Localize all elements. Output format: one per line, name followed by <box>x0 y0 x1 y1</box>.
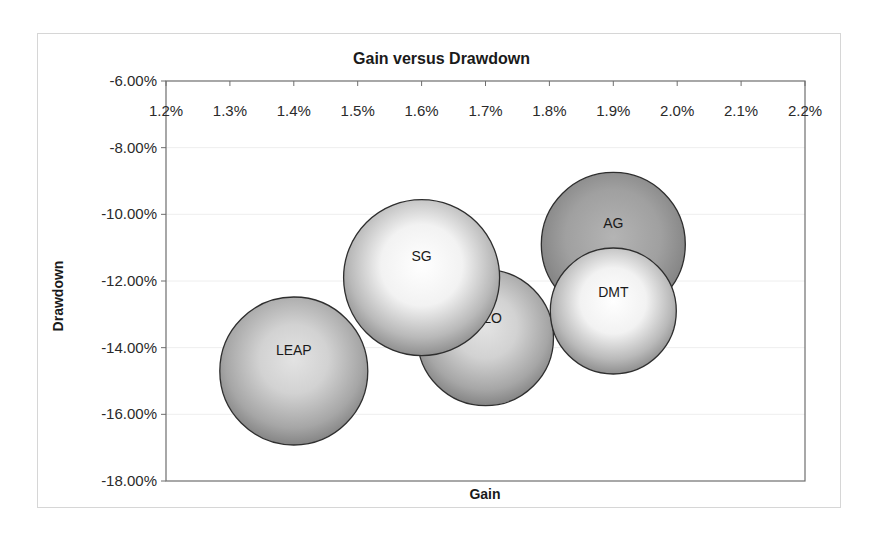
bubble-leap[interactable]: LEAP <box>220 297 368 445</box>
x-tick-label: 1.8% <box>532 102 566 119</box>
x-tick-label: 2.0% <box>660 102 694 119</box>
bubble-label: SG <box>411 248 431 264</box>
bubble-dmt[interactable]: DMT <box>550 248 676 374</box>
y-tick-label: -12.00% <box>101 272 157 289</box>
bubble-plot: -6.00%-8.00%-10.00%-12.00%-14.00%-16.00%… <box>0 0 883 533</box>
x-tick-label: 1.9% <box>596 102 630 119</box>
bubble-label: LEAP <box>276 342 312 358</box>
y-tick-label: -8.00% <box>109 139 157 156</box>
y-tick-label: -18.00% <box>101 472 157 489</box>
bubble-label: AG <box>603 215 623 231</box>
y-tick-label: -14.00% <box>101 339 157 356</box>
bubble-sg[interactable]: SG <box>344 200 500 356</box>
x-tick-label: 1.4% <box>277 102 311 119</box>
x-tick-label: 1.7% <box>468 102 502 119</box>
bubble-label: DMT <box>598 284 629 300</box>
x-tick-label: 1.3% <box>213 102 247 119</box>
x-tick-label: 1.6% <box>404 102 438 119</box>
y-tick-label: -10.00% <box>101 205 157 222</box>
x-tick-label: 2.2% <box>788 102 822 119</box>
y-tick-label: -16.00% <box>101 405 157 422</box>
x-tick-label: 2.1% <box>724 102 758 119</box>
x-tick-label: 1.2% <box>149 102 183 119</box>
y-tick-label: -6.00% <box>109 72 157 89</box>
bubbles: LEAPHILOSGAGDMT <box>220 172 686 445</box>
x-tick-label: 1.5% <box>341 102 375 119</box>
